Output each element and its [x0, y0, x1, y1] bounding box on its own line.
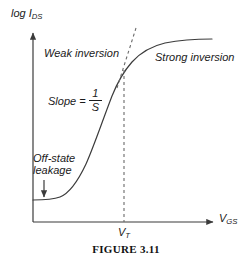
weak-inversion-label: Weak inversion: [44, 47, 119, 59]
off-state-leakage-line1: Off-state: [33, 152, 75, 164]
off-state-leakage-line2: leakage: [33, 164, 75, 176]
y-axis-label-subscript: DS: [32, 12, 43, 21]
x-axis-label-subscript: GS: [226, 217, 237, 226]
slope-denominator: S: [89, 101, 102, 113]
slope-equation-text: Slope =: [48, 95, 86, 107]
y-axis-label-text: log I: [11, 7, 32, 19]
threshold-voltage-label: VT: [118, 226, 130, 240]
x-axis-label: VGS: [219, 212, 237, 226]
slope-numerator: 1: [89, 88, 101, 100]
slope-annotation: Slope = 1 S: [48, 89, 102, 114]
strong-inversion-label: Strong inversion: [155, 51, 235, 63]
threshold-voltage-subscript: T: [125, 231, 130, 240]
figure-caption: FIGURE 3.11: [0, 243, 252, 255]
off-state-leakage-label: Off-state leakage: [33, 152, 75, 177]
slope-fraction: 1 S: [89, 88, 102, 113]
figure-container: log IDS VGS VT Weak inversion Strong inv…: [0, 0, 252, 265]
y-axis-label: log IDS: [11, 7, 42, 21]
